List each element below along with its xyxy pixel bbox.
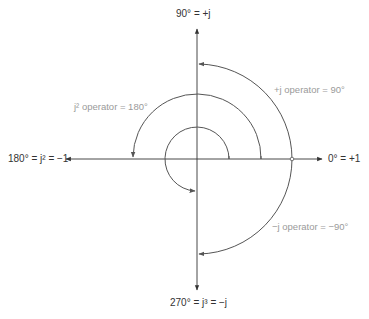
label-90-deg: 90° = +j: [176, 8, 211, 20]
label-j-squared-operator: j² operator = 180°: [74, 101, 148, 113]
origin-tick-outer: [290, 157, 294, 161]
label-plus-j-operator: +j operator = 90°: [274, 84, 345, 96]
minus-j-arc: [199, 159, 292, 254]
plus-j-arc: [199, 64, 292, 159]
axes: [66, 29, 322, 290]
label-minus-j-operator: −j operator = −90°: [272, 221, 348, 233]
label-180-deg: 180° = j² = −1: [8, 153, 68, 165]
label-270-deg: 270° = j³ = −j: [170, 297, 227, 309]
label-0-deg: 0° = +1: [328, 153, 360, 165]
